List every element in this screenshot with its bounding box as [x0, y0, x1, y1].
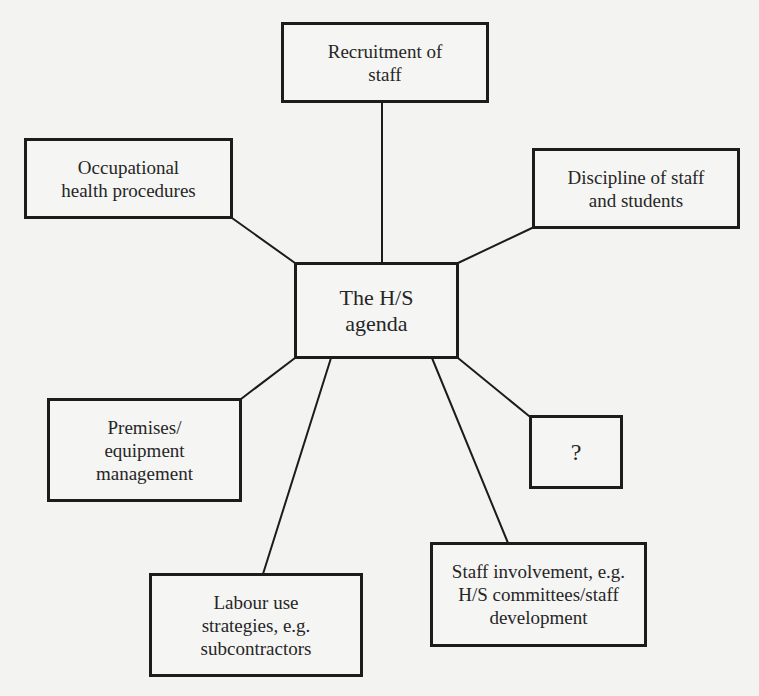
edge-occupational-health	[232, 218, 295, 263]
center-label: The H/S agenda	[340, 285, 414, 337]
node-unknown: ?	[529, 415, 623, 489]
edge-unknown	[458, 358, 529, 416]
node-label: Discipline of staff and students	[568, 166, 705, 212]
node-staff-involvement: Staff involvement, e.g. H/S committees/s…	[430, 542, 647, 647]
node-recruitment: Recruitment of staff	[281, 22, 489, 103]
node-label: Staff involvement, e.g. H/S committees/s…	[452, 560, 625, 629]
node-label: ?	[571, 441, 582, 464]
node-label: Recruitment of staff	[328, 40, 443, 86]
edge-staff-involvement	[432, 358, 508, 543]
node-center-hs-agenda: The H/S agenda	[294, 262, 459, 359]
edge-labour-use	[263, 358, 331, 574]
node-label: Labour use strategies, e.g. subcontracto…	[201, 591, 312, 660]
node-labour-use: Labour use strategies, e.g. subcontracto…	[149, 573, 363, 677]
node-discipline: Discipline of staff and students	[532, 148, 740, 229]
edge-discipline	[458, 228, 532, 263]
node-label: Premises/ equipment management	[96, 416, 193, 485]
edge-premises	[241, 358, 295, 399]
hs-agenda-diagram: Recruitment of staff Occupational health…	[0, 0, 759, 696]
node-label: Occupational health procedures	[61, 156, 196, 202]
node-occupational-health: Occupational health procedures	[24, 138, 233, 219]
node-premises: Premises/ equipment management	[47, 398, 242, 502]
